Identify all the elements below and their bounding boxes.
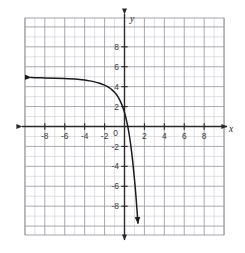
- x-tick-label: 4: [162, 131, 167, 141]
- y-tick-label: -4: [112, 161, 120, 171]
- x-tick-label: -8: [41, 131, 49, 141]
- y-tick-label: -6: [112, 181, 120, 191]
- origin-label: 0: [113, 128, 118, 138]
- graph-canvas: -8-6-4-22468 8642-2-4-6-8 0 x y: [0, 0, 245, 253]
- x-tick-label: -4: [81, 131, 89, 141]
- x-tick-label: 8: [202, 131, 207, 141]
- x-tick-label: -2: [101, 131, 109, 141]
- x-tick-label: -6: [61, 131, 69, 141]
- y-tick-label: -2: [112, 142, 120, 152]
- y-tick-label: -8: [112, 201, 120, 211]
- y-tick-label: 4: [114, 82, 119, 92]
- y-tick-label: 6: [114, 62, 119, 72]
- y-axis-name-label: y: [129, 14, 135, 24]
- y-tick-label: 8: [114, 42, 119, 52]
- y-tick-label: 2: [114, 102, 119, 112]
- x-tick-label: 6: [182, 131, 187, 141]
- coordinate-graph-figure: -8-6-4-22468 8642-2-4-6-8 0 x y: [0, 0, 245, 253]
- x-tick-label: 2: [142, 131, 147, 141]
- x-axis-name-label: x: [228, 124, 234, 134]
